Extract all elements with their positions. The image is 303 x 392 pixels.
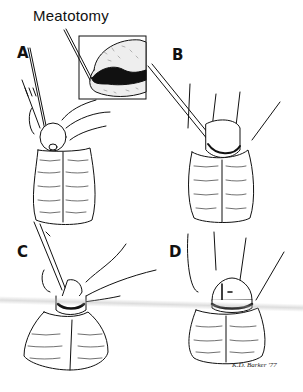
panel-d-drawing xyxy=(187,232,284,364)
illustration xyxy=(0,0,303,392)
inset-cross-section xyxy=(79,36,146,99)
panel-b-drawing xyxy=(148,64,280,223)
artist-signature: K.D. Barker '77 xyxy=(232,361,277,369)
panel-c-drawing xyxy=(24,222,156,370)
